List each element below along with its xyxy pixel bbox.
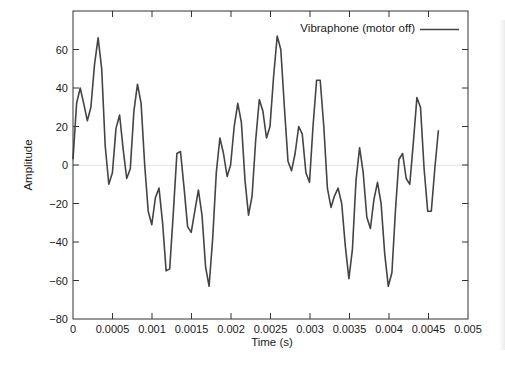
x-tick-label: 0.005 — [454, 323, 482, 335]
y-tick-label: 20 — [56, 121, 68, 133]
x-tick-label: 0.0025 — [254, 323, 288, 335]
y-tick-label: −40 — [49, 236, 68, 248]
x-tick-label: 0.004 — [375, 323, 403, 335]
x-axis-label: Time (s) — [251, 336, 293, 348]
y-tick-label: 40 — [56, 82, 68, 94]
waveform-chart: 00.00050.0010.00150.0020.00250.0030.0035… — [0, 0, 505, 372]
y-tick-label: −20 — [49, 198, 68, 210]
x-tick-label: 0 — [70, 323, 76, 335]
legend: Vibraphone (motor off) — [300, 22, 459, 34]
legend-label: Vibraphone (motor off) — [300, 22, 415, 34]
y-tick-label: −80 — [49, 313, 68, 325]
y-axis-label: Amplitude — [22, 139, 34, 190]
x-tick-label: 0.0005 — [96, 323, 130, 335]
x-tick-label: 0.003 — [296, 323, 324, 335]
x-tick-label: 0.001 — [138, 323, 166, 335]
y-tick-label: 60 — [56, 44, 68, 56]
x-tick-label: 0.0015 — [175, 323, 209, 335]
y-axis-ticks: −80−60−40−200204060 — [49, 44, 468, 326]
y-tick-label: −60 — [49, 275, 68, 287]
page-edge-shadow — [499, 20, 505, 350]
y-tick-label: 0 — [62, 159, 68, 171]
x-tick-label: 0.0035 — [333, 323, 367, 335]
x-tick-label: 0.0045 — [412, 323, 446, 335]
x-tick-label: 0.002 — [217, 323, 245, 335]
series-line-vibraphone — [73, 36, 438, 286]
